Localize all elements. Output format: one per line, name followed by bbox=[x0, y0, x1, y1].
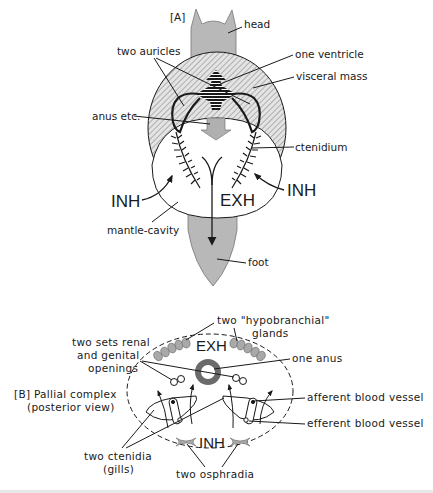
renal-label-line2: and genital bbox=[77, 349, 140, 361]
ctenidium-label: ctenidium bbox=[295, 141, 347, 153]
foot-label: foot bbox=[248, 256, 269, 268]
right-renal-openings bbox=[233, 375, 247, 385]
panel-a-tag: [A] bbox=[170, 11, 185, 23]
current-arrow-1 bbox=[158, 391, 168, 428]
mantle-cavity-leader bbox=[152, 202, 178, 222]
current-arrow-2 bbox=[190, 385, 193, 424]
two-auricles-label: two auricles bbox=[117, 45, 180, 57]
right-hypobranchial-gland bbox=[229, 337, 267, 362]
panel-a: [A] INH bbox=[92, 9, 367, 286]
mantle-cavity-label: mantle-cavity bbox=[107, 224, 179, 236]
one-anus-label: one anus bbox=[292, 352, 343, 364]
ctenidia-label-line2: (gills) bbox=[103, 463, 134, 475]
head-label: head bbox=[244, 18, 270, 30]
efferent-label: efferent blood vessel bbox=[307, 417, 424, 429]
afferent-leader bbox=[254, 398, 305, 401]
exh-label: EXH bbox=[220, 191, 255, 210]
inh-left-label: INH bbox=[111, 192, 140, 211]
osphradia-label: two osphradia bbox=[176, 468, 254, 480]
inh-b-label: INH bbox=[199, 434, 225, 451]
anus-b-leader bbox=[214, 359, 290, 369]
left-renal-openings bbox=[171, 376, 185, 386]
hypobranchial-label-line1: two "hypobranchial" bbox=[217, 314, 330, 326]
renal-label-line3: openings bbox=[88, 362, 138, 374]
exh-b-label: EXH bbox=[196, 337, 227, 354]
panel-b-title-line1: [B] Pallial complex bbox=[14, 388, 117, 400]
anus-label: anus etc. bbox=[92, 110, 140, 122]
visceral-mass-label: visceral mass bbox=[296, 70, 367, 82]
renal-label-line1: two sets renal bbox=[72, 336, 150, 348]
one-ventricle-label: one ventricle bbox=[295, 48, 364, 60]
gastropod-diagram: [A] INH bbox=[0, 0, 433, 493]
inh-right-label: INH bbox=[287, 181, 316, 200]
panel-b: EXH bbox=[14, 314, 424, 480]
panel-b-title-line2: (posterior view) bbox=[27, 401, 115, 413]
efferent-leader bbox=[249, 421, 305, 424]
hypobranchial-label-line2: glands bbox=[252, 327, 289, 339]
current-arrow-3 bbox=[229, 385, 233, 428]
ctenidia-label-line1: two ctenidia bbox=[84, 450, 152, 462]
afferent-label: afferent blood vessel bbox=[307, 391, 424, 403]
left-osphradium bbox=[176, 438, 196, 446]
right-osphradium bbox=[230, 438, 250, 446]
